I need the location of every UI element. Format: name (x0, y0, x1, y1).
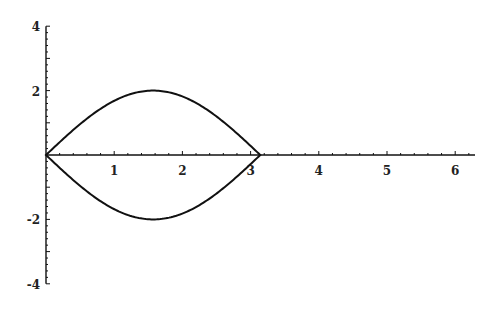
x-tick-label: 5 (383, 164, 391, 178)
tick-labels: 123456-4-224 (27, 20, 460, 292)
x-tick-label: 4 (315, 164, 323, 178)
x-tick-label: 2 (178, 164, 186, 178)
y-tick-label: -2 (27, 213, 40, 227)
y-tick-label: 4 (32, 20, 40, 34)
y-tick-label: 2 (32, 85, 40, 99)
x-tick-label: 1 (110, 164, 118, 178)
y-tick-label: -4 (27, 278, 40, 292)
plot-area: 123456-4-224 (0, 0, 494, 311)
x-tick-label: 6 (451, 164, 459, 178)
